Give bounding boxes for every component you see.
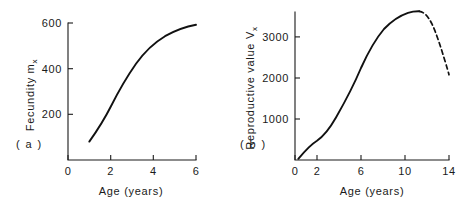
panel-a-xlabel-2: 2 [107, 165, 114, 177]
svg-text:Reproductive value Vx: Reproductive value Vx [244, 26, 259, 149]
panel-b-x-axis-title: Age (years) [340, 185, 405, 197]
panel-a-axes [68, 23, 196, 160]
panel-b-plot: 3000 2000 1000 0 2 6 10 14 Age (years) R… [232, 0, 464, 205]
panel-b-xlabel-6: 6 [358, 165, 365, 177]
panel-a-label: ( a ) [16, 138, 43, 150]
panel-b-y-axis-title: Reproductive value Vx [244, 26, 259, 149]
panel-b-xlabel-10: 10 [398, 165, 411, 177]
panel-a-ylabel-600: 600 [42, 17, 62, 29]
panel-b-xlabel-0: 0 [292, 165, 299, 177]
panel-a-y-axis-title-sub: x [30, 59, 39, 64]
panel-a-y-axis-title: Fecundity mx [24, 59, 39, 131]
panel-a-xlabel-4: 4 [150, 165, 157, 177]
panel-a-plot: 600 400 200 0 2 4 6 Age (years) Fecundit… [0, 0, 232, 205]
panel-b-ylabel-1000: 1000 [262, 113, 289, 125]
panel-a-ylabel-400: 400 [42, 63, 62, 75]
panel-a-x-axis-title: Age (years) [99, 185, 164, 197]
panel-b-curve-observed [298, 11, 419, 159]
svg-text:Fecundity mx: Fecundity mx [24, 59, 39, 131]
panel-b-xlabel-2: 2 [314, 165, 321, 177]
panel-a-ylabel-200: 200 [42, 108, 62, 120]
panel-a-curve [89, 25, 196, 142]
panel-b-ylabel-2000: 2000 [262, 72, 289, 84]
panel-b-label: ( b ) [240, 138, 267, 150]
panel-b-ylabel-3000: 3000 [262, 31, 289, 43]
panel-b-xlabel-14: 14 [442, 165, 455, 177]
panel-b-y-axis-title-sub: x [250, 26, 259, 31]
panel-a: 600 400 200 0 2 4 6 Age (years) Fecundit… [0, 0, 232, 205]
panel-a-y-axis-title-main: Fecundity m [24, 64, 36, 132]
panel-b: 3000 2000 1000 0 2 6 10 14 Age (years) R… [232, 0, 464, 205]
panel-b-y-axis-title-main: Reproductive value V [244, 31, 256, 150]
figure-container: 600 400 200 0 2 4 6 Age (years) Fecundit… [0, 0, 464, 205]
panel-b-axes [295, 12, 449, 160]
panel-a-xlabel-0: 0 [65, 165, 72, 177]
panel-b-curve-extrapolated [419, 11, 449, 75]
panel-a-xlabel-6: 6 [193, 165, 200, 177]
